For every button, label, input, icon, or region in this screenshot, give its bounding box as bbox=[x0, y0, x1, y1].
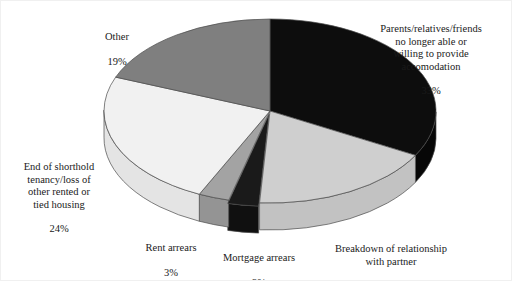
slice-label-breakdown-text: Breakdown of relationship with partner bbox=[306, 243, 476, 268]
slice-label-breakdown: Breakdown of relationship with partner 1… bbox=[306, 231, 476, 281]
slice-label-shorthold-value: 24% bbox=[3, 223, 115, 235]
slice-label-parents: Parents/relatives/friends no longer able… bbox=[357, 11, 505, 110]
slice-label-shorthold: End of shorthold tenancy/loss of other r… bbox=[3, 149, 115, 248]
slice-label-parents-value: 33% bbox=[357, 85, 505, 97]
slice-label-mortgage: Mortgage arrears 3% bbox=[201, 240, 317, 281]
slice-label-parents-text: Parents/relatives/friends no longer able… bbox=[357, 23, 505, 73]
slice-label-other-value: 19% bbox=[77, 56, 157, 68]
slice-label-other-text: Other bbox=[77, 31, 157, 43]
slice-label-other: Other 19% bbox=[77, 19, 157, 81]
slice-label-mortgage-value: 3% bbox=[201, 277, 317, 281]
slice-label-mortgage-text: Mortgage arrears bbox=[201, 252, 317, 264]
pie-slice-side-mortgage bbox=[228, 203, 259, 233]
pie-chart-figure: Parents/relatives/friends no longer able… bbox=[0, 0, 512, 281]
slice-label-shorthold-text: End of shorthold tenancy/loss of other r… bbox=[3, 161, 115, 211]
